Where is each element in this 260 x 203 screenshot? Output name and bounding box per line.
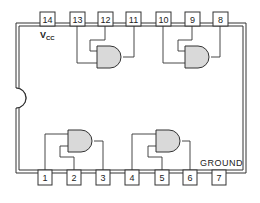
and-gate-icon: [97, 46, 121, 68]
pin-number: 5: [159, 173, 164, 183]
pin-8: 8: [213, 12, 228, 26]
pin-2: 2: [67, 170, 81, 185]
and-gate-icon: [156, 130, 180, 152]
pin-number: 7: [216, 173, 221, 183]
pin-number: 6: [187, 173, 192, 183]
pin-number: 10: [158, 15, 168, 25]
ground-label: GROUND: [200, 158, 243, 168]
package-notch: [16, 88, 26, 108]
pin-14: 14: [40, 12, 55, 26]
pin-number: 14: [42, 15, 52, 25]
and-gate-icon: [185, 46, 209, 68]
pin-number: 13: [72, 15, 82, 25]
top-pins: 14 13 12 11 10 9 8: [40, 12, 228, 26]
pin-4: 4: [125, 170, 139, 185]
pin-11: 11: [126, 12, 141, 26]
pin-12: 12: [98, 12, 113, 26]
pin-7: 7: [212, 170, 226, 185]
and-gate-icon: [68, 130, 92, 152]
pin-number: 1: [42, 173, 47, 183]
package-body: [16, 23, 246, 173]
pin-number: 11: [129, 15, 138, 25]
pin-number: 2: [71, 173, 76, 183]
pin-9: 9: [185, 12, 200, 26]
pin-13: 13: [70, 12, 85, 26]
pin-10: 10: [156, 12, 171, 26]
pin-3: 3: [96, 170, 110, 185]
pin-number: 9: [190, 15, 195, 25]
pin-number: 8: [218, 15, 223, 25]
pin-number: 4: [129, 173, 134, 183]
pin-number: 3: [100, 173, 105, 183]
pin-number: 12: [100, 15, 110, 25]
vcc-label: VCC: [40, 30, 55, 41]
bottom-pins: 1 2 3 4 5 6 7: [38, 170, 226, 185]
pin-5: 5: [155, 170, 169, 185]
pin-6: 6: [183, 170, 197, 185]
pin-1: 1: [38, 170, 52, 185]
vcc-label-sub: CC: [46, 35, 55, 41]
ic-pinout-diagram: 14 13 12 11 10 9 8 1 2 3 4 5 6 7 VCC GRO…: [0, 0, 260, 203]
